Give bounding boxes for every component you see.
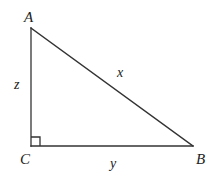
side-x-line	[31, 28, 193, 146]
triangle-svg	[0, 0, 217, 179]
side-label-z: z	[14, 78, 19, 92]
vertex-label-b: B	[196, 152, 205, 167]
right-angle-marker-icon	[31, 137, 40, 146]
triangle-diagram: A B C x y z	[0, 0, 217, 179]
vertex-label-c: C	[20, 152, 30, 167]
side-label-y: y	[110, 157, 116, 171]
vertex-label-a: A	[24, 10, 33, 25]
side-label-x: x	[117, 66, 123, 80]
